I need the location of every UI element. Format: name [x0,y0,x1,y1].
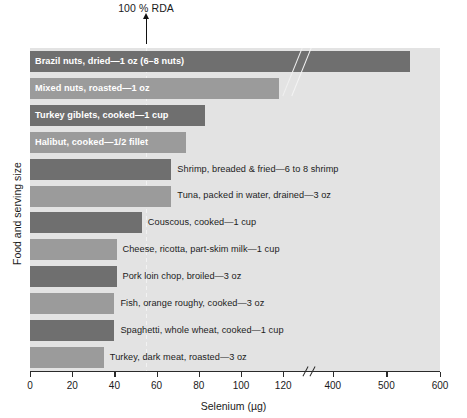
bar-label: Shrimp, breaded & fried—6 to 8 shrimp [177,165,338,174]
x-axis-tick [72,372,73,377]
y-axis-title: Food and serving size [11,162,23,265]
bar [30,266,117,287]
x-axis-break-icon [305,366,321,378]
plot-area [30,48,440,371]
rda-arrow-shaft [146,18,147,44]
x-axis-tick-label: 0 [27,380,33,391]
x-axis-tick [30,372,31,377]
x-axis-tick-label: 120 [275,380,292,391]
x-axis-tick-label: 80 [193,380,204,391]
x-axis-tick-label: 40 [109,380,120,391]
bar-label: Turkey, dark meat, roasted—3 oz [110,353,247,362]
rda-annotation: 100 % RDA [0,0,467,48]
selenium-bar-chart: 100 % RDA Brazil nuts, dried—1 oz (6–8 n… [0,0,467,418]
x-axis-tick [157,372,158,377]
bar-label: Mixed nuts, roasted—1 oz [35,84,150,93]
bar-label: Tuna, packed in water, drained—3 oz [177,191,331,200]
bar [30,239,117,260]
bar-label: Fish, orange roughy, cooked—3 oz [120,299,264,308]
x-axis-tick [333,372,334,377]
x-axis-tick [114,372,115,377]
bar-label: Halibut, cooked—1/2 fillet [35,138,148,147]
axis-break-slash-2 [309,366,315,376]
x-axis-tick [241,372,242,377]
x-axis-tick [440,372,441,377]
bar [30,212,142,233]
bar [30,186,171,207]
bar [30,159,171,180]
x-axis-tick [199,372,200,377]
x-axis-tick-label: 400 [324,380,341,391]
bar-label: Turkey giblets, cooked—1 cup [35,111,168,120]
bar-label: Couscous, cooked—1 cup [148,218,256,227]
x-axis-tick [283,372,284,377]
bar-label: Cheese, ricotta, part-skim milk—1 cup [123,245,280,254]
bar [30,320,114,341]
rda-arrow-head [143,13,149,19]
x-axis-tick-label: 20 [67,380,78,391]
x-axis-tick-label: 100 [233,380,250,391]
bar [30,347,104,368]
bar [30,293,114,314]
bar-label: Pork loin chop, broiled—3 oz [123,272,242,281]
bar-label: Spaghetti, whole wheat, cooked—1 cup [120,326,283,335]
bar-label: Brazil nuts, dried—1 oz (6–8 nuts) [35,57,184,66]
x-axis-title: Selenium (µg) [0,400,467,412]
x-axis-tick [386,372,387,377]
x-axis-tick-label: 500 [378,380,395,391]
x-axis-tick-label: 60 [151,380,162,391]
x-axis-line [30,371,440,372]
x-axis-tick-label: 600 [432,380,449,391]
